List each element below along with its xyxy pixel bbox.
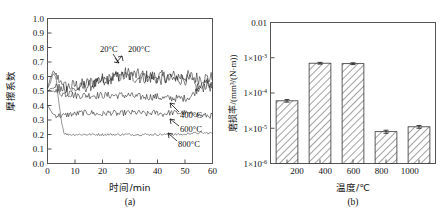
y-tick-a-7: 0.7 xyxy=(33,57,45,67)
panel-b-svg: 0.01 1×10-3 1×10-4 1×10-5 1×10-6 200 xyxy=(223,0,446,210)
x-tick-b-2: 600 xyxy=(347,166,361,176)
x-tick-b-0: 200 xyxy=(290,166,304,176)
y-tick-a-5: 0.5 xyxy=(33,86,45,96)
y-tick-a-3: 0.3 xyxy=(33,115,45,125)
x-tick-b-1: 400 xyxy=(318,166,332,176)
x-tick-a-2: 20 xyxy=(98,166,108,176)
x-tick-a-4: 40 xyxy=(153,166,163,176)
panel-b-wear-rate: 0.01 1×10-3 1×10-4 1×10-5 1×10-6 200 xyxy=(223,0,446,210)
annot-20c: 20°C xyxy=(100,44,118,54)
x-tick-b-4: 1000 xyxy=(401,166,420,176)
y-tick-a-2: 0.2 xyxy=(33,130,44,140)
bars-group-b xyxy=(276,62,430,163)
y-axis-title-b: 磨损率/(mm³/(N·m)) xyxy=(227,54,238,131)
x-tick-a-1: 10 xyxy=(71,166,81,176)
x-tick-a-0: 0 xyxy=(45,166,50,176)
bar-200 xyxy=(276,101,298,164)
y-tick-a-0: 0.0 xyxy=(33,159,45,169)
x-axis-title-a: 时间/min xyxy=(109,182,150,193)
y-tick-a-4: 0.4 xyxy=(33,101,45,111)
y-tick-a-1: 0.1 xyxy=(33,144,44,154)
x-tick-a-5: 50 xyxy=(181,166,191,176)
x-tick-a-6: 60 xyxy=(208,166,218,176)
y-axis-tick-labels-b: 0.01 1×10-3 1×10-4 1×10-5 1×10-6 xyxy=(243,18,267,169)
y-tick-a-9: 0.9 xyxy=(33,28,45,38)
x-tick-a-3: 30 xyxy=(126,166,136,176)
bar-800 xyxy=(375,132,397,164)
y-tick-b-1e-5: 1×10-5 xyxy=(243,124,267,134)
y-tick-b-1e-4: 1×10-4 xyxy=(243,88,267,98)
y-tick-b-1e-6: 1×10-6 xyxy=(243,159,267,169)
x-axis-ticks-b xyxy=(287,160,419,164)
x-axis-ticks-a xyxy=(48,160,213,164)
x-axis-tick-labels-b: 200 400 600 800 1000 xyxy=(290,166,419,176)
y-axis-tick-labels-a: 1.0 0.9 0.8 0.7 0.6 0.5 0.4 0.3 0.2 0.1 … xyxy=(33,14,45,169)
annot-800c: 800°C xyxy=(178,139,200,149)
x-tick-b-3: 800 xyxy=(375,166,389,176)
annot-400c: 400°C xyxy=(180,110,202,120)
caption-b: (b) xyxy=(347,197,358,208)
y-axis-title-a: 摩擦系数 xyxy=(5,71,16,111)
y-tick-a-8: 0.8 xyxy=(33,43,45,53)
x-axis-tick-labels-a: 0 10 20 30 40 50 60 xyxy=(45,166,217,176)
panel-a-friction-coefficient: 1.0 0.9 0.8 0.7 0.6 0.5 0.4 0.3 0.2 0.1 … xyxy=(0,0,223,210)
caption-a: (a) xyxy=(125,197,136,208)
bar-600 xyxy=(342,64,364,164)
annot-600c: 600°C xyxy=(180,124,202,134)
y-tick-b-1e-3: 1×10-3 xyxy=(243,53,267,63)
x-axis-title-b: 温度/℃ xyxy=(336,182,370,193)
bar-1000 xyxy=(408,127,430,164)
bar-400 xyxy=(309,63,331,163)
y-tick-a-6: 0.6 xyxy=(33,72,45,82)
annot-200c: 200°C xyxy=(128,44,150,54)
y-tick-b-0-01: 0.01 xyxy=(251,18,267,28)
y-axis-ticks-b xyxy=(271,23,275,164)
y-tick-a-10: 1.0 xyxy=(33,14,45,24)
panel-a-svg: 1.0 0.9 0.8 0.7 0.6 0.5 0.4 0.3 0.2 0.1 … xyxy=(0,0,223,210)
figure-container: 1.0 0.9 0.8 0.7 0.6 0.5 0.4 0.3 0.2 0.1 … xyxy=(0,0,446,210)
